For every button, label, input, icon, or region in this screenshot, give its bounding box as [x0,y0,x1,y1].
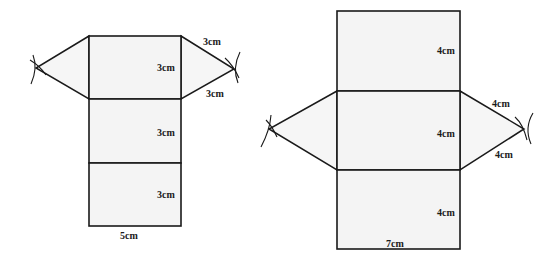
label-tri-side-lower: 4cm [495,149,513,160]
label-face1-height: 3cm [157,62,175,73]
prism-nets-diagram: 3cm 3cm 3cm 5cm 3cm 3cm 4cm 4cm 4cm 7cm … [0,0,560,263]
compass-arc-right-a [528,113,533,144]
net-large: 4cm 4cm 4cm 7cm 4cm 4cm [261,11,533,249]
left-triangle-face [269,91,337,170]
label-base-width: 7cm [386,238,404,249]
label-face1-height: 4cm [437,45,455,56]
label-tri-side-lower: 3cm [206,88,224,99]
label-tri-side-upper: 3cm [203,36,221,47]
net-small: 3cm 3cm 3cm 5cm 3cm 3cm [30,36,240,241]
compass-arc-right-a [235,52,240,83]
left-triangle-face [36,36,89,99]
label-face3-height: 3cm [157,189,175,200]
compass-arc-left-a [31,55,35,84]
compass-arc-left-a [261,115,271,147]
label-face3-height: 4cm [437,207,455,218]
label-face2-height: 3cm [157,127,175,138]
label-face2-height: 4cm [437,128,455,139]
label-tri-side-upper: 4cm [492,98,510,109]
label-base-width: 5cm [120,230,138,241]
